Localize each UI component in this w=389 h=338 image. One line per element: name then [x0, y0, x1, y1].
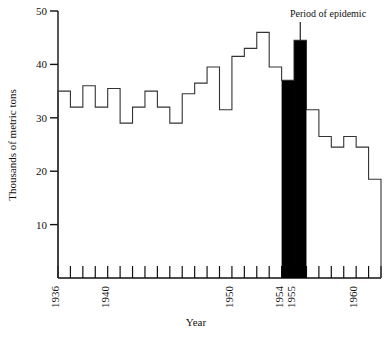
y-tick-label: 10: [36, 219, 48, 231]
y-tick-label: 40: [36, 58, 48, 70]
x-tick-label: 1950: [223, 286, 235, 309]
x-axis-title: Year: [186, 316, 207, 328]
bars-outline-group: [58, 32, 381, 278]
x-axis-ticks: [58, 266, 381, 278]
y-tick-label: 20: [36, 165, 48, 177]
chart-figure: 1020304050 193619401950195419551960 Peri…: [0, 0, 389, 338]
x-tick-label: 1940: [99, 286, 111, 309]
step-outline-path: [58, 32, 381, 278]
y-tick-label: 50: [36, 5, 48, 17]
x-axis-tick-labels: 193619401950195419551960: [49, 286, 359, 309]
bar-epidemic-top-1955: [295, 41, 306, 278]
y-tick-label: 30: [36, 112, 48, 124]
x-tick-label: 1960: [347, 286, 359, 309]
chart-canvas: 1020304050 193619401950195419551960 Peri…: [0, 0, 389, 338]
y-axis-ticks: [50, 11, 58, 225]
epidemic-annotation-label: Period of epidemic: [290, 8, 367, 19]
bar-epidemic-top-1954: [282, 81, 293, 278]
y-axis-tick-labels: 1020304050: [36, 5, 48, 231]
x-tick-label: 1936: [49, 286, 61, 309]
axes-group: [58, 11, 381, 278]
x-tick-label: 1954: [273, 286, 285, 309]
y-axis-title: Thousands of metric tons: [6, 89, 18, 201]
x-tick-label: 1955: [285, 286, 297, 309]
